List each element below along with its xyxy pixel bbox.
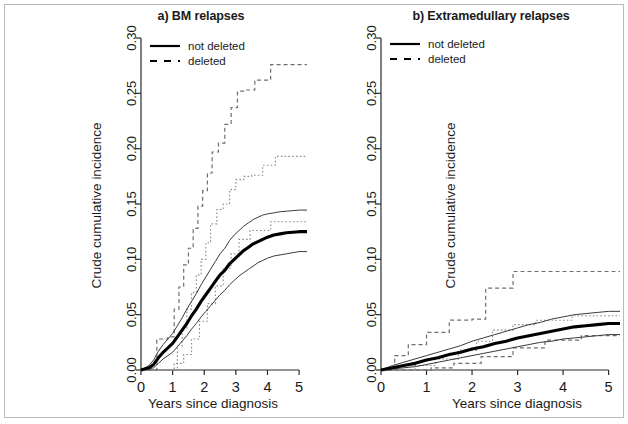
x-axis-tick-label: 0 [137, 379, 145, 395]
y-axis-tick-label: 0.20 [364, 136, 379, 161]
panel-b-plot: 0.000.050.100.150.200.250.30012345not de… [314, 0, 628, 424]
curve-not-deleted [141, 232, 307, 370]
y-axis-tick-label: 0.15 [364, 191, 379, 216]
x-axis-tick-label: 3 [232, 379, 240, 395]
curve-not-deleted [381, 324, 620, 370]
y-axis-tick-label: 0.05 [364, 302, 379, 327]
curve-not-deleted-upper-ci [381, 311, 620, 370]
x-axis-tick-label: 5 [605, 379, 613, 395]
panel-bm-relapses: a) BM relapses Crude cumulative incidenc… [0, 0, 314, 424]
figure-container: a) BM relapses Crude cumulative incidenc… [0, 0, 628, 424]
y-axis-tick-label: 0.20 [124, 136, 139, 161]
x-axis-tick-label: 5 [295, 379, 303, 395]
y-axis-tick-label: 0.10 [124, 247, 139, 272]
x-axis-tick-label: 2 [200, 379, 208, 395]
y-axis-tick-label: 0.25 [364, 81, 379, 106]
y-axis-tick-label: 0.10 [364, 247, 379, 272]
y-axis-tick-label: 0.30 [364, 25, 379, 50]
panel-extramedullary-relapses: b) Extramedullary relapses Crude cumulat… [314, 0, 628, 424]
x-axis-tick-label: 4 [263, 379, 271, 395]
x-axis-tick-label: 4 [559, 379, 567, 395]
legend-label-deleted: deleted [428, 53, 466, 65]
x-axis-tick-label: 2 [468, 379, 476, 395]
curve-deleted-upper-ci [141, 156, 307, 370]
x-axis-tick-label: 3 [514, 379, 522, 395]
legend-label-deleted: deleted [188, 55, 226, 67]
x-axis-tick-label: 1 [422, 379, 430, 395]
legend-label-not-deleted: not deleted [188, 40, 245, 52]
panel-a-plot: 0.000.050.100.150.200.250.30012345not de… [0, 0, 314, 424]
curve-deleted [381, 272, 620, 370]
curve-deleted [141, 65, 307, 370]
y-axis-tick-label: 0.15 [124, 191, 139, 216]
curve-not-deleted-lower-ci [381, 335, 620, 370]
y-axis-tick-label: 0.25 [124, 81, 139, 106]
x-axis-tick-label: 1 [169, 379, 177, 395]
x-axis-tick-label: 0 [377, 379, 385, 395]
y-axis-tick-label: 0.30 [124, 25, 139, 50]
y-axis-tick-label: 0.05 [124, 302, 139, 327]
legend-label-not-deleted: not deleted [428, 38, 485, 50]
